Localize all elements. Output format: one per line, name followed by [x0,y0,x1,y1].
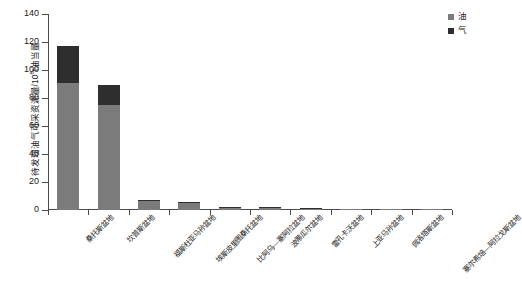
bar-group[interactable] [219,207,241,210]
legend-swatch [448,28,454,34]
bar-segment-oil [178,202,200,210]
bar-segment-oil [421,209,443,210]
x-axis-label: 佩洛塔斯盆地 [411,214,446,249]
bar-group[interactable] [380,209,402,210]
x-axis-label: 塞尔希培—阿拉戈斯盆地 [461,214,521,274]
x-tick [290,210,291,215]
x-axis-label: 坎普斯盆地 [126,214,156,244]
x-axis-label: 福斯杜亚马孙盆地 [172,214,217,259]
bar-group[interactable] [300,208,322,210]
x-tick [371,210,372,215]
legend-item[interactable]: 油 [448,12,467,21]
bar-segment-oil [219,207,241,210]
y-tick-label: 140 [24,8,39,18]
bar-group[interactable] [421,209,443,210]
legend: 油气 [448,12,467,41]
y-tick: 120 [42,42,48,43]
y-tick-label: 60 [29,120,39,130]
y-tick: 40 [42,154,48,155]
y-tick-label: 80 [29,92,39,102]
bar-segment-oil [98,105,120,210]
bar-group[interactable] [340,209,362,210]
legend-item[interactable]: 气 [448,26,467,35]
x-tick [250,210,251,215]
x-tick [129,210,130,215]
bar-segment-gas [57,46,79,82]
legend-label: 气 [458,26,467,35]
bar-group[interactable] [178,202,200,210]
y-tick: 100 [42,70,48,71]
x-axis-label: 上亚马孙盆地 [370,214,405,249]
legend-swatch [448,14,454,20]
y-tick-label: 120 [24,36,39,46]
x-tick [169,210,170,215]
bar-group[interactable] [259,207,281,210]
x-tick [88,210,89,215]
y-tick-label: 40 [29,148,39,158]
bar-segment-oil [259,207,281,210]
y-tick-label: 0 [34,204,39,214]
bar-segment-oil [57,83,79,210]
x-tick [412,210,413,215]
bar-segment-oil [300,208,322,210]
legend-label: 油 [458,12,467,21]
x-tick [452,210,453,215]
plot-area: 020406080100120140 [48,14,452,210]
y-tick: 60 [42,126,48,127]
bar-group[interactable] [57,46,79,210]
bar-group[interactable] [98,85,120,210]
x-axis-label: 桑托斯盆地 [85,214,115,244]
y-tick: 80 [42,98,48,99]
bar-segment-oil [380,209,402,210]
bar-segment-gas [98,85,120,105]
x-axis-label: 雷孔卡沃盆地 [330,214,365,249]
bar-segment-oil [340,209,362,210]
x-tick [331,210,332,215]
y-tick-label: 100 [24,64,39,74]
y-tick-label: 20 [29,176,39,186]
x-tick [48,210,49,215]
y-tick: 140 [42,14,48,15]
bar-group[interactable] [138,200,160,210]
y-tick: 20 [42,182,48,183]
y-axis-line [48,14,49,210]
bar-segment-oil [138,200,160,210]
